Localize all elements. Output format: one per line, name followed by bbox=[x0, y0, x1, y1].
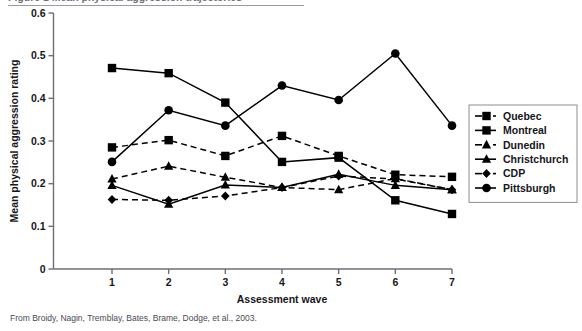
data-point bbox=[448, 121, 457, 130]
data-point bbox=[448, 173, 456, 181]
y-tick-label: 0.6 bbox=[31, 7, 46, 19]
figure-root: Figure 1 Mean physical aggression trajec… bbox=[0, 0, 582, 331]
figure-caption: From Broidy, Nagin, Tremblay, Bates, Bra… bbox=[10, 313, 257, 323]
data-point bbox=[278, 132, 286, 140]
y-axis-ticks: 00.10.20.30.40.50.6 bbox=[31, 7, 54, 275]
legend-label: CDP bbox=[503, 167, 525, 179]
data-point bbox=[334, 172, 343, 181]
data-point bbox=[108, 195, 117, 204]
series-cdp bbox=[108, 172, 457, 205]
legend-label: Quebec bbox=[503, 110, 542, 122]
x-tick-label: 6 bbox=[392, 276, 398, 288]
legend-label: Pittsburgh bbox=[503, 182, 556, 194]
data-point bbox=[221, 98, 229, 106]
data-point bbox=[164, 106, 173, 115]
y-tick-label: 0 bbox=[40, 263, 46, 275]
y-tick-label: 0.2 bbox=[31, 177, 46, 189]
data-point bbox=[164, 161, 173, 170]
y-tick-label: 0.3 bbox=[31, 135, 46, 147]
y-tick-label: 0.4 bbox=[31, 92, 46, 104]
legend-marker-square-icon bbox=[482, 126, 490, 134]
series-quebec bbox=[108, 132, 456, 181]
y-axis-title: Mean physical aggression rating bbox=[8, 60, 20, 223]
data-point bbox=[108, 64, 116, 72]
data-point bbox=[334, 153, 342, 161]
data-point bbox=[334, 96, 343, 105]
data-point bbox=[448, 210, 456, 218]
data-point bbox=[278, 81, 287, 90]
data-point bbox=[221, 180, 230, 189]
data-point bbox=[221, 121, 230, 130]
y-tick-label: 0.1 bbox=[31, 220, 46, 232]
x-axis-title: Assessment wave bbox=[237, 293, 328, 305]
data-point bbox=[278, 158, 286, 166]
data-point bbox=[221, 192, 230, 201]
legend-label: Dunedin bbox=[503, 139, 545, 151]
data-point bbox=[164, 69, 172, 77]
line-chart: 00.10.20.30.40.50.61234567Assessment wav… bbox=[0, 0, 582, 331]
series-pittsburgh bbox=[108, 49, 457, 166]
legend-marker-square-icon bbox=[482, 112, 490, 120]
x-axis-ticks: 1234567 bbox=[109, 269, 455, 288]
data-point bbox=[391, 49, 400, 58]
chart-legend: QuebecMontrealDunedinChristchurchCDPPitt… bbox=[469, 105, 577, 202]
x-tick-label: 1 bbox=[109, 276, 115, 288]
legend-label: Christchurch bbox=[503, 153, 568, 165]
series-line bbox=[112, 54, 452, 162]
y-tick-label: 0.5 bbox=[31, 49, 46, 61]
data-point bbox=[108, 143, 116, 151]
x-tick-label: 4 bbox=[279, 276, 285, 288]
data-point bbox=[108, 158, 117, 167]
x-tick-label: 7 bbox=[449, 276, 455, 288]
data-point bbox=[391, 196, 399, 204]
chart-plot-area: 00.10.20.30.40.50.61234567Assessment wav… bbox=[0, 0, 582, 331]
data-point bbox=[164, 136, 172, 144]
series-line bbox=[112, 136, 452, 177]
x-tick-label: 5 bbox=[336, 276, 342, 288]
data-point bbox=[221, 152, 229, 160]
x-tick-label: 3 bbox=[222, 276, 228, 288]
legend-marker-circle-icon bbox=[482, 184, 491, 193]
legend-label: Montreal bbox=[503, 124, 547, 136]
x-tick-label: 2 bbox=[166, 276, 172, 288]
